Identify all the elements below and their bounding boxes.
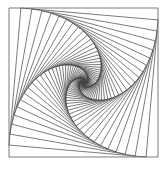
square-outline	[40, 39, 127, 126]
square-outline	[24, 23, 143, 142]
nested-squares-lines	[9, 8, 158, 157]
square-outline	[48, 47, 119, 118]
square-outline	[14, 13, 153, 152]
square-outline	[28, 27, 139, 138]
whirl-square-pattern	[0, 0, 166, 171]
square-outline	[71, 70, 96, 95]
square-outline	[17, 16, 150, 149]
square-outline	[32, 31, 135, 134]
square-outline	[44, 43, 122, 121]
square-outline	[12, 11, 156, 155]
square-outline	[52, 51, 115, 114]
square-outline	[83, 82, 85, 84]
square-outline	[59, 58, 108, 107]
